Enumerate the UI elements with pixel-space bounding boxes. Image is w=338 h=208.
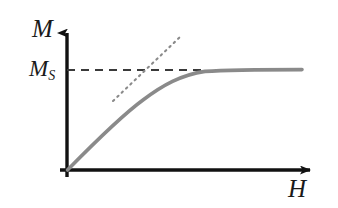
magnetization-curve-figure: M MS H — [0, 0, 338, 208]
saturation-label-base: M — [29, 56, 48, 81]
saturation-label-subscript: S — [48, 68, 55, 83]
magnetization-curve — [68, 70, 303, 170]
x-axis-label: H — [288, 176, 306, 201]
y-axis-label: M — [32, 16, 53, 41]
saturation-label: MS — [29, 57, 55, 83]
